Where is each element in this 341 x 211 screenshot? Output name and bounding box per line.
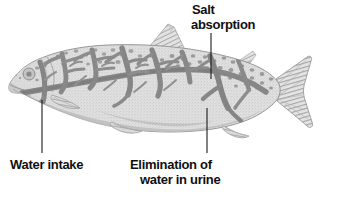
caudal-fin [276,56,313,127]
osmoregulation-figure: Salt absorption Water intake Elimination… [0,0,341,211]
label-water-intake: Water intake [10,157,83,172]
label-elimination-line1: Elimination of [130,157,212,172]
label-salt-absorption-line2: absorption [191,17,255,32]
label-elimination-line2: water in urine [140,172,220,187]
label-salt-absorption: Salt absorption [192,2,255,32]
label-salt-absorption-line1: Salt [192,2,215,17]
label-elimination-of-water-in-urine: Elimination of water in urine [130,157,220,187]
label-water-intake-line1: Water intake [10,157,83,172]
anal-fin [222,126,249,138]
fish-eye [23,68,35,80]
